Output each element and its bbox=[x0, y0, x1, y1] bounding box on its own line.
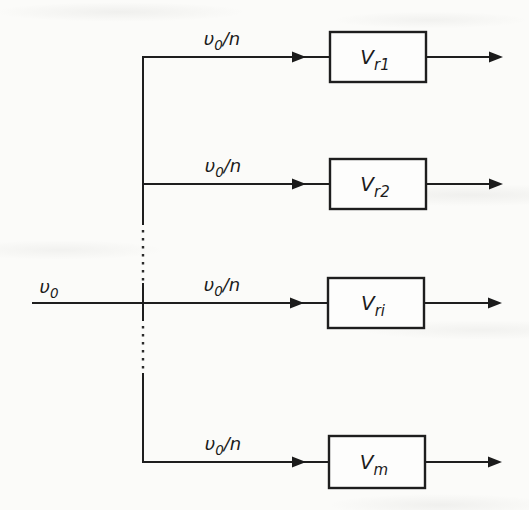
label-sub: 0 bbox=[215, 164, 224, 180]
source-label-sub: 0 bbox=[50, 285, 59, 301]
arrowhead-icon bbox=[292, 52, 306, 63]
signal-splitter-diagram: υ0 υ0/n Vr1 υ0/n Vr2 bbox=[0, 0, 529, 510]
label-sub: 0 bbox=[214, 283, 223, 299]
source-label: υ0 bbox=[39, 276, 58, 301]
label-suffix: /n bbox=[221, 28, 240, 49]
label-base: υ bbox=[205, 155, 215, 176]
arrowhead-icon bbox=[290, 298, 304, 309]
arrowhead-icon bbox=[489, 52, 503, 63]
branch-1: υ0/n Vr1 bbox=[142, 28, 503, 82]
label-sub: 0 bbox=[215, 442, 224, 458]
label-base: υ bbox=[204, 28, 214, 49]
diagram-stage: υ0 υ0/n Vr1 υ0/n Vr2 bbox=[0, 0, 529, 510]
label-suffix: /n bbox=[222, 155, 241, 176]
branch-3: υ0/n Vri bbox=[204, 274, 502, 328]
box-label-sub: m bbox=[374, 461, 389, 479]
box-label-sub: r1 bbox=[374, 56, 390, 74]
arrowhead-icon bbox=[489, 179, 503, 190]
label-sub: 0 bbox=[214, 37, 223, 53]
label-suffix: /n bbox=[221, 274, 240, 295]
label-base: υ bbox=[204, 274, 214, 295]
source-label-base: υ bbox=[39, 276, 49, 297]
box-label-sub: ri bbox=[375, 302, 386, 320]
label-suffix: /n bbox=[222, 433, 241, 454]
branch-2: υ0/n Vr2 bbox=[142, 155, 503, 209]
branch-4: υ0/n Vm bbox=[142, 433, 502, 488]
arrowhead-icon bbox=[292, 457, 306, 468]
branch-input-label: υ0/n bbox=[205, 155, 242, 180]
box-label-sub: r2 bbox=[374, 183, 390, 201]
branch-input-label: υ0/n bbox=[204, 274, 241, 299]
arrowhead-icon bbox=[292, 179, 306, 190]
branch-input-label: υ0/n bbox=[204, 28, 241, 53]
label-base: υ bbox=[205, 433, 215, 454]
arrowhead-icon bbox=[488, 298, 502, 309]
branch-input-label: υ0/n bbox=[205, 433, 242, 458]
arrowhead-icon bbox=[488, 457, 502, 468]
